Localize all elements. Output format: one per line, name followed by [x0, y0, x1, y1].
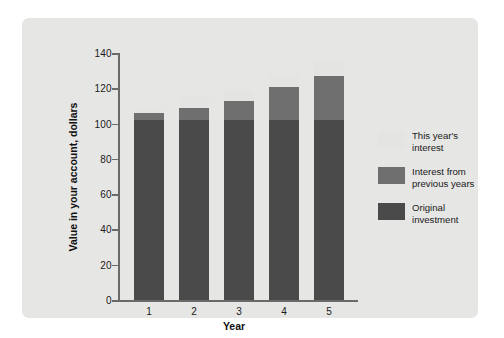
segment-original-investment-year-4 — [269, 120, 299, 300]
x-tick-label-5: 5 — [314, 306, 344, 317]
plot-area: 0 20 40 60 80 100 120 140 — [118, 53, 350, 300]
legend-item-this-years-interest[interactable]: This year's interest — [378, 130, 496, 153]
legend-item-interest-previous-years[interactable]: Interest from previous years — [378, 166, 496, 189]
chart-legend: This year's interest Interest from previ… — [378, 130, 496, 238]
y-tick-label-120: 120 — [94, 83, 111, 94]
x-tick-label-3: 3 — [224, 306, 254, 317]
y-tick-20: 20 — [112, 265, 118, 267]
segment-interest-previous-years-year-1 — [134, 113, 164, 120]
segment-original-investment-year-5 — [314, 120, 344, 300]
legend-swatch-original-investment — [378, 203, 405, 220]
bar-stack-year-3 — [224, 90, 254, 300]
legend-swatch-interest-previous-years — [378, 167, 405, 184]
legend-item-original-investment[interactable]: Original investment — [378, 202, 496, 225]
y-tick-120: 120 — [112, 88, 118, 90]
x-axis-title: Year — [118, 320, 350, 332]
bar-stack-year-1 — [134, 110, 164, 300]
x-axis-line — [118, 300, 358, 302]
x-tick-label-4: 4 — [269, 306, 299, 317]
y-tick-80: 80 — [112, 159, 118, 161]
y-tick-0: 0 — [112, 300, 118, 302]
segment-this-years-interest-year-2 — [179, 97, 209, 108]
y-tick-label-40: 40 — [100, 224, 112, 235]
y-tick-100: 100 — [112, 124, 118, 126]
x-tick-label-2: 2 — [179, 306, 209, 317]
segment-interest-previous-years-year-3 — [224, 101, 254, 120]
y-tick-label-60: 60 — [100, 189, 112, 200]
segment-interest-previous-years-year-5 — [314, 76, 344, 120]
segment-interest-previous-years-year-4 — [269, 87, 299, 121]
segment-this-years-interest-year-5 — [314, 62, 344, 76]
segment-original-investment-year-2 — [179, 120, 209, 300]
y-axis-title: Value in your account, dollars — [66, 53, 80, 300]
y-tick-label-80: 80 — [100, 153, 112, 164]
segment-this-years-interest-year-4 — [269, 76, 299, 87]
y-tick-60: 60 — [112, 194, 118, 196]
y-tick-label-0: 0 — [106, 295, 112, 306]
bar-stack-year-5 — [314, 62, 344, 300]
bar-stack-year-2 — [179, 97, 209, 300]
x-tick-label-1: 1 — [134, 306, 164, 317]
chart-panel: Value in your account, dollars 0 20 40 6… — [22, 18, 478, 318]
legend-label-original-investment: Original investment — [412, 202, 458, 225]
y-tick-label-140: 140 — [94, 48, 111, 59]
bar-stack-year-4 — [269, 76, 299, 300]
figure: Value in your account, dollars 0 20 40 6… — [0, 0, 504, 338]
y-axis-title-text: Value in your account, dollars — [67, 102, 79, 251]
y-tick-140: 140 — [112, 53, 118, 55]
segment-this-years-interest-year-3 — [224, 90, 254, 101]
legend-swatch-this-years-interest — [378, 131, 405, 148]
legend-label-interest-previous-years: Interest from previous years — [412, 166, 474, 189]
y-tick-label-20: 20 — [100, 259, 112, 270]
y-axis-line — [118, 53, 120, 300]
y-tick-label-100: 100 — [94, 118, 111, 129]
legend-label-this-years-interest: This year's interest — [412, 130, 458, 153]
y-tick-40: 40 — [112, 229, 118, 231]
segment-original-investment-year-3 — [224, 120, 254, 300]
segment-original-investment-year-1 — [134, 120, 164, 300]
segment-interest-previous-years-year-2 — [179, 108, 209, 120]
